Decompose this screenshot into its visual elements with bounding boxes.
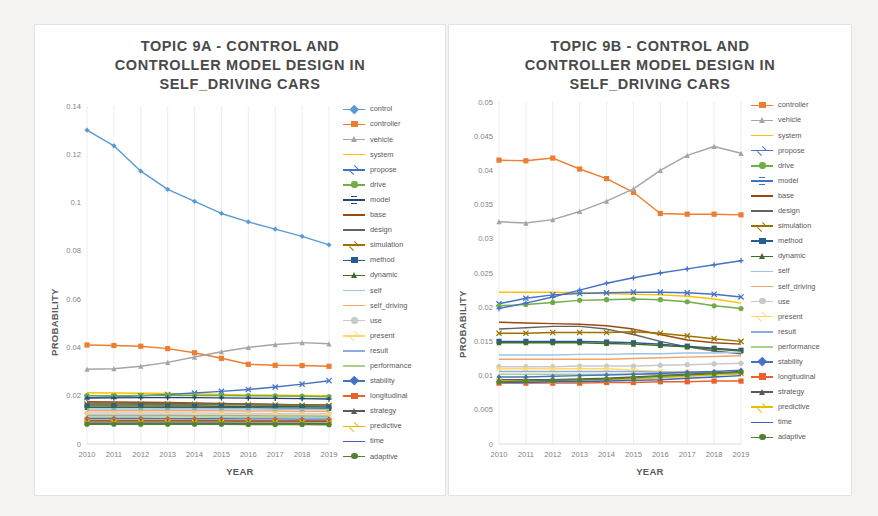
legend-swatch-icon: [343, 286, 365, 295]
legend-swatch-icon: [751, 101, 773, 110]
legend-item-adaptive[interactable]: adaptive: [343, 449, 412, 464]
legend-item-self[interactable]: self: [751, 264, 820, 279]
data-point-marker: [273, 226, 278, 231]
chart-title-topic-9a: TOPIC 9A - CONTROL AND CONTROLLER MODEL …: [69, 37, 411, 94]
legend-label: time: [778, 418, 792, 425]
legend-swatch-icon: [343, 316, 365, 325]
legend-item-strategy[interactable]: strategy: [751, 384, 820, 399]
series-self_driving: [499, 355, 741, 358]
y-tick-label: 0.05: [478, 97, 493, 106]
legend-label: system: [370, 151, 393, 158]
legend-item-drive[interactable]: drive: [751, 158, 820, 173]
legend-item-controller[interactable]: controller: [343, 117, 412, 132]
data-point-marker: [523, 158, 528, 163]
legend-item-control[interactable]: control: [343, 102, 412, 117]
series-line: [499, 352, 741, 355]
legend-item-model[interactable]: model: [343, 192, 412, 207]
legend-swatch-icon: [343, 361, 365, 370]
legend-item-self[interactable]: self: [343, 283, 412, 298]
legend-item-dynamic[interactable]: dynamic: [751, 248, 820, 263]
legend-item-base[interactable]: base: [751, 188, 820, 203]
legend-topic-9a[interactable]: controlcontrollervehiclesystemproposedri…: [343, 102, 412, 464]
legend-swatch-icon: [751, 402, 773, 411]
legend-label: adaptive: [778, 433, 806, 440]
legend-item-propose[interactable]: propose: [751, 143, 820, 158]
legend-item-stability[interactable]: stability: [751, 354, 820, 369]
legend-item-present[interactable]: present: [751, 309, 820, 324]
legend-item-predictive[interactable]: predictive: [343, 419, 412, 434]
legend-item-simulation[interactable]: simulation: [343, 237, 412, 252]
legend-item-design[interactable]: design: [751, 203, 820, 218]
y-tick-label: 0: [77, 439, 81, 448]
legend-item-present[interactable]: present: [343, 328, 412, 343]
legend-swatch-icon: [343, 210, 365, 219]
legend-item-self_driving[interactable]: self_driving: [343, 298, 412, 313]
legend-item-stability[interactable]: stability: [343, 373, 412, 388]
legend-item-result[interactable]: result: [751, 324, 820, 339]
data-point-marker: [631, 375, 636, 380]
x-tick-label: 2014: [186, 450, 203, 459]
legend-item-use[interactable]: use: [343, 313, 412, 328]
data-point-marker: [219, 421, 224, 426]
legend-item-propose[interactable]: propose: [343, 162, 412, 177]
legend-item-self_driving[interactable]: self_driving: [751, 279, 820, 294]
legend-item-dynamic[interactable]: dynamic: [343, 268, 412, 283]
data-point-marker: [738, 305, 743, 310]
legend-label: result: [370, 347, 388, 354]
legend-swatch-icon: [343, 256, 365, 265]
legend-item-performance[interactable]: performance: [343, 358, 412, 373]
x-tick-label: 2010: [491, 450, 508, 459]
series-self: [499, 352, 741, 355]
data-point-marker: [738, 258, 743, 263]
legend-item-base[interactable]: base: [343, 207, 412, 222]
legend-swatch-icon: [751, 282, 773, 291]
legend-item-predictive[interactable]: predictive: [751, 399, 820, 414]
legend-label: controller: [778, 101, 808, 108]
legend-label: self: [370, 287, 382, 294]
legend-item-design[interactable]: design: [343, 222, 412, 237]
legend-item-vehicle[interactable]: vehicle: [343, 132, 412, 147]
x-tick-label: 2011: [106, 450, 122, 459]
legend-label: design: [370, 226, 392, 233]
legend-label: self_driving: [778, 283, 815, 290]
legend-swatch-icon: [751, 252, 773, 261]
x-tick-label: 2010: [79, 450, 96, 459]
x-tick-label: 2013: [571, 450, 588, 459]
x-tick-label: 2017: [679, 450, 696, 459]
legend-label: drive: [778, 162, 794, 169]
data-point-marker: [219, 210, 224, 215]
legend-item-method[interactable]: method: [751, 233, 820, 248]
legend-swatch-icon: [343, 331, 365, 340]
legend-item-longitudinal[interactable]: longitudinal: [343, 388, 412, 403]
legend-swatch-icon: [751, 131, 773, 140]
legend-item-adaptive[interactable]: adaptive: [751, 430, 820, 445]
legend-item-use[interactable]: use: [751, 294, 820, 309]
legend-item-model[interactable]: model: [751, 173, 820, 188]
legend-label: self_driving: [370, 302, 407, 309]
legend-item-controller[interactable]: controller: [751, 98, 820, 113]
legend-item-system[interactable]: system: [343, 147, 412, 162]
plot-area-topic-9b: 00.0050.010.0150.020.0250.030.0350.040.0…: [449, 96, 851, 484]
legend-item-simulation[interactable]: simulation: [751, 218, 820, 233]
legend-item-time[interactable]: time: [751, 415, 820, 430]
legend-item-performance[interactable]: performance: [751, 339, 820, 354]
series-line: [499, 158, 741, 215]
legend-item-method[interactable]: method: [343, 252, 412, 267]
data-point-marker: [300, 233, 305, 238]
data-point-marker: [685, 299, 690, 304]
chart-title-topic-9b: TOPIC 9B - CONTROL AND CONTROLLER MODEL …: [483, 37, 817, 94]
legend-label: performance: [778, 343, 820, 350]
legend-item-drive[interactable]: drive: [343, 177, 412, 192]
legend-item-vehicle[interactable]: vehicle: [751, 113, 820, 128]
y-tick-label: 0.005: [474, 405, 493, 414]
legend-item-result[interactable]: result: [343, 343, 412, 358]
data-point-marker: [658, 210, 663, 215]
legend-item-time[interactable]: time: [343, 434, 412, 449]
legend-swatch-icon: [751, 146, 773, 155]
legend-topic-9b[interactable]: controllervehiclesystemproposedrivemodel…: [751, 98, 820, 445]
legend-item-longitudinal[interactable]: longitudinal: [751, 369, 820, 384]
legend-label: present: [778, 313, 803, 320]
legend-item-system[interactable]: system: [751, 128, 820, 143]
legend-item-strategy[interactable]: strategy: [343, 403, 412, 418]
data-point-marker: [738, 212, 743, 217]
